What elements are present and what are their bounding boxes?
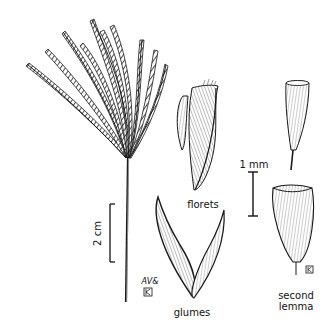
monogram-mark-lemma [306, 266, 313, 273]
scale-bar-2cm [110, 204, 115, 262]
illustration-drawing [0, 0, 330, 332]
second-lemma-label-line1: second [268, 290, 324, 301]
artist-signature: AV& [139, 276, 161, 287]
culm [126, 158, 129, 302]
botanical-illustration: florets glumes second lemma 1 mm 2 cm AV… [0, 0, 330, 332]
scale-bar-1mm [248, 172, 258, 216]
scale-1mm-label: 1 mm [236, 159, 272, 170]
glumes-label: glumes [166, 307, 218, 318]
inflorescence [26, 19, 168, 158]
florets-label: florets [177, 199, 229, 210]
glumes-drawing [156, 197, 224, 298]
second-lemma-label-line2: lemma [268, 301, 324, 312]
scale-2cm-label: 2 cm [92, 219, 103, 249]
second-lemma-upper [286, 81, 309, 171]
florets-drawing [177, 79, 218, 190]
monogram-mark [144, 288, 152, 296]
second-lemma-lower [273, 185, 314, 275]
